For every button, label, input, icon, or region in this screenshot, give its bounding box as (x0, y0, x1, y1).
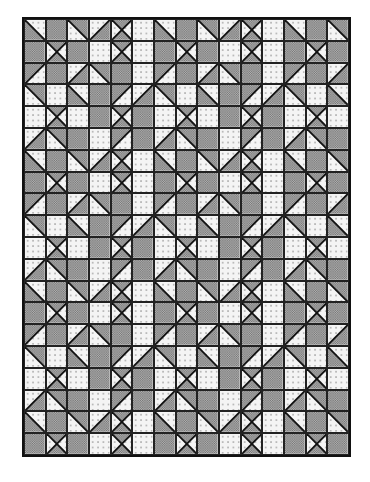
triangle-block (219, 193, 241, 215)
dark-square (284, 433, 306, 455)
triangle-block (24, 346, 46, 368)
hourglass-block (306, 368, 328, 390)
triangle-block (241, 346, 263, 368)
triangle-block (67, 346, 89, 368)
light-dotted-square (219, 41, 241, 63)
hourglass-block (241, 237, 263, 259)
dark-square (262, 106, 284, 128)
triangle-block (197, 411, 219, 433)
triangle-block (67, 84, 89, 106)
hourglass-block (111, 19, 133, 41)
triangle-block (176, 390, 198, 412)
dark-square (67, 172, 89, 194)
triangle-block (46, 128, 68, 150)
light-dotted-square (46, 346, 68, 368)
triangle-block (219, 324, 241, 346)
dark-square (327, 390, 349, 412)
light-dotted-square (262, 281, 284, 303)
light-dotted-square (306, 84, 328, 106)
light-dotted-square (132, 411, 154, 433)
hourglass-block (176, 172, 198, 194)
light-dotted-square (89, 259, 111, 281)
triangle-block (284, 150, 306, 172)
triangle-block (284, 390, 306, 412)
triangle-block (262, 346, 284, 368)
light-dotted-square (67, 368, 89, 390)
dark-square (241, 193, 263, 215)
triangle-block (24, 259, 46, 281)
dark-square (176, 411, 198, 433)
light-dotted-square (132, 433, 154, 455)
hourglass-block (111, 411, 133, 433)
hourglass-block (111, 41, 133, 63)
dark-square (132, 106, 154, 128)
dark-square (24, 41, 46, 63)
hourglass-block (241, 368, 263, 390)
triangle-block (327, 150, 349, 172)
dark-square (197, 302, 219, 324)
triangle-block (306, 390, 328, 412)
light-dotted-square (284, 368, 306, 390)
dark-square (197, 172, 219, 194)
triangle-block (284, 346, 306, 368)
dark-square (24, 302, 46, 324)
light-dotted-square (89, 128, 111, 150)
light-dotted-square (46, 215, 68, 237)
light-dotted-square (219, 128, 241, 150)
dark-square (219, 106, 241, 128)
dark-square (306, 324, 328, 346)
dark-square (111, 63, 133, 85)
dark-square (197, 433, 219, 455)
dark-square (111, 324, 133, 346)
triangle-block (284, 128, 306, 150)
triangle-block (67, 193, 89, 215)
dark-square (111, 193, 133, 215)
triangle-block (132, 215, 154, 237)
triangle-block (241, 128, 263, 150)
dark-square (219, 368, 241, 390)
light-dotted-square (197, 106, 219, 128)
dark-square (219, 215, 241, 237)
dark-square (284, 302, 306, 324)
triangle-block (306, 128, 328, 150)
triangle-block (176, 128, 198, 150)
light-dotted-square (154, 237, 176, 259)
dark-square (306, 281, 328, 303)
dark-square (89, 215, 111, 237)
triangle-block (327, 215, 349, 237)
hourglass-block (241, 302, 263, 324)
hourglass-block (46, 106, 68, 128)
triangle-block (241, 84, 263, 106)
triangle-block (111, 215, 133, 237)
dark-square (67, 433, 89, 455)
light-dotted-square (306, 215, 328, 237)
triangle-block (327, 193, 349, 215)
triangle-block (67, 281, 89, 303)
triangle-block (284, 259, 306, 281)
triangle-block (327, 411, 349, 433)
dark-square (327, 433, 349, 455)
dark-square (262, 128, 284, 150)
dark-square (67, 302, 89, 324)
triangle-block (24, 215, 46, 237)
light-dotted-square (24, 106, 46, 128)
triangle-block (154, 411, 176, 433)
triangle-block (154, 63, 176, 85)
triangle-block (154, 281, 176, 303)
light-dotted-square (262, 433, 284, 455)
light-dotted-square (89, 433, 111, 455)
light-dotted-square (176, 215, 198, 237)
light-dotted-square (306, 346, 328, 368)
light-dotted-square (262, 172, 284, 194)
triangle-block (89, 150, 111, 172)
triangle-block (327, 19, 349, 41)
light-dotted-square (219, 390, 241, 412)
triangle-block (197, 84, 219, 106)
light-dotted-square (132, 324, 154, 346)
dark-square (262, 237, 284, 259)
triangle-block (197, 193, 219, 215)
light-dotted-square (262, 150, 284, 172)
dark-square (327, 172, 349, 194)
dark-square (46, 411, 68, 433)
dark-square (24, 433, 46, 455)
